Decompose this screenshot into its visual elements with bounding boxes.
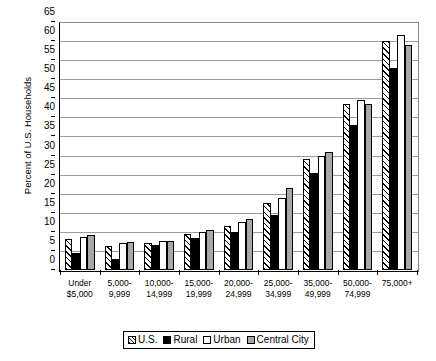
bar-central-city-2: [167, 241, 174, 270]
y-tick-mark-35: [51, 135, 55, 136]
bar-u-s-5: [263, 203, 270, 270]
bar-u-s-3: [184, 234, 191, 270]
x-axis-tick-labels: Under$5,0005,000-9,99910,000-14,99915,00…: [60, 278, 417, 308]
bar-u-s-7: [343, 104, 350, 270]
bar-urban-4: [238, 222, 245, 270]
x-tick-label-6: 35,000-49,999: [298, 278, 338, 300]
x-label-line2: 9,999: [100, 289, 140, 300]
x-tick-mark-end: [417, 270, 418, 275]
bar-group: [60, 22, 100, 270]
y-tick-mark-30: [51, 155, 55, 156]
x-tick-label-4: 20,000-24,999: [219, 278, 259, 300]
bar-rural-3: [191, 238, 198, 270]
y-tick-mark-65: [51, 21, 55, 22]
x-label-line1: 5,000-: [107, 278, 131, 288]
legend-item-rural[interactable]: Rural: [163, 334, 197, 346]
x-label-line2: 34,999: [258, 289, 298, 300]
y-tick-mark-45: [51, 97, 55, 98]
x-label-line1: 10,000-: [145, 278, 174, 288]
bar-u-s-1: [105, 246, 112, 270]
y-tick-mark-60: [51, 40, 55, 41]
bar-urban-1: [119, 243, 126, 270]
bar-central-city-8: [405, 45, 412, 270]
y-axis-tick-marks: [0, 22, 60, 270]
bars-layer: [60, 22, 417, 270]
y-tick-mark-15: [51, 212, 55, 213]
x-tick-label-0: Under$5,000: [60, 278, 100, 300]
x-tick-mark-5: [258, 270, 259, 275]
legend-label: Urban: [213, 334, 240, 346]
x-tick-label-1: 5,000-9,999: [100, 278, 140, 300]
bar-urban-6: [318, 156, 325, 270]
bar-rural-0: [72, 253, 79, 270]
bar-central-city-4: [246, 219, 253, 271]
bar-rural-2: [152, 245, 159, 270]
legend-swatch-icon: [163, 336, 171, 344]
x-label-line2: 14,999: [139, 289, 179, 300]
bar-group: [338, 22, 378, 270]
x-tick-label-8: 75,000+: [377, 278, 417, 289]
x-tick-label-3: 15,000-19,999: [179, 278, 219, 300]
y-tick-mark-40: [51, 116, 55, 117]
bar-group: [179, 22, 219, 270]
x-tick-mark-6: [298, 270, 299, 275]
x-label-line1: 50,000-: [343, 278, 372, 288]
y-tick-mark-25: [51, 174, 55, 175]
x-label-line2: 24,999: [219, 289, 259, 300]
x-label-line1: 15,000-: [184, 278, 213, 288]
legend-swatch-icon: [203, 336, 211, 344]
legend-item-u-s[interactable]: U.S.: [128, 334, 157, 346]
legend-item-urban[interactable]: Urban: [203, 334, 240, 346]
x-label-line1: 35,000-: [303, 278, 332, 288]
x-label-line1: 20,000-: [224, 278, 253, 288]
bar-group: [219, 22, 259, 270]
x-axis-tick-marks: [60, 270, 417, 276]
bar-central-city-0: [87, 235, 94, 270]
bar-u-s-4: [224, 226, 231, 270]
bar-group: [298, 22, 338, 270]
x-tick-mark-7: [338, 270, 339, 275]
legend-swatch-icon: [247, 336, 255, 344]
bar-group: [139, 22, 179, 270]
x-label-line2: $5,000: [60, 289, 100, 300]
bar-urban-7: [357, 100, 364, 270]
legend: U.S.RuralUrbanCentral City: [123, 331, 315, 349]
bar-u-s-8: [382, 41, 389, 270]
legend-label: U.S.: [138, 334, 157, 346]
bar-urban-0: [80, 237, 87, 270]
x-tick-mark-0: [60, 270, 61, 275]
y-tick-mark-5: [51, 250, 55, 251]
bar-rural-7: [350, 125, 357, 270]
bar-u-s-2: [144, 243, 151, 270]
bar-central-city-7: [365, 104, 372, 270]
x-tick-label-7: 50,000-74,999: [338, 278, 378, 300]
y-tick-label-65: 65: [15, 7, 55, 17]
legend-swatch-icon: [128, 336, 136, 344]
bar-rural-6: [310, 173, 317, 270]
x-tick-label-5: 25,000-34,999: [258, 278, 298, 300]
y-tick-mark-0: [51, 269, 55, 270]
x-label-line1: Under: [68, 278, 91, 288]
bar-central-city-3: [206, 230, 213, 270]
bar-rural-4: [231, 232, 238, 270]
x-tick-mark-3: [179, 270, 180, 275]
legend-label: Central City: [257, 334, 309, 346]
bar-central-city-1: [127, 242, 134, 270]
bar-u-s-6: [303, 159, 310, 270]
bar-urban-2: [159, 241, 166, 270]
legend-item-central-city[interactable]: Central City: [247, 334, 309, 346]
bar-u-s-0: [65, 239, 72, 270]
y-tick-mark-50: [51, 78, 55, 79]
legend-label: Rural: [173, 334, 197, 346]
bar-central-city-5: [286, 188, 293, 270]
bar-urban-5: [278, 198, 285, 270]
x-label-line2: 19,999: [179, 289, 219, 300]
x-tick-mark-1: [100, 270, 101, 275]
bar-central-city-6: [325, 152, 332, 270]
bar-urban-3: [199, 232, 206, 270]
bar-rural-1: [112, 259, 119, 270]
bar-rural-5: [271, 215, 278, 270]
x-tick-mark-2: [139, 270, 140, 275]
y-tick-mark-10: [51, 231, 55, 232]
x-label-line1: 75,000+: [382, 278, 413, 288]
